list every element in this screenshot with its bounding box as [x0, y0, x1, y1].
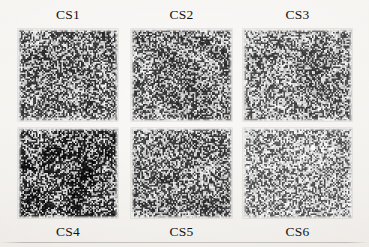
micrograph-cs3 [243, 29, 352, 121]
panel-label-cs3: CS3 [243, 7, 352, 22]
panel-label-cs6: CS6 [243, 224, 352, 239]
micrograph-canvas-cs3 [243, 29, 352, 121]
micrograph-canvas-cs1 [18, 29, 118, 121]
panel-label-cs4: CS4 [18, 224, 118, 239]
figure-root: CS1 CS2 CS3 CS4 CS5 CS6 [0, 0, 369, 247]
micrograph-canvas-cs2 [131, 29, 232, 121]
panel-label-cs2: CS2 [131, 7, 232, 22]
micrograph-canvas-cs5 [131, 128, 232, 218]
micrograph-canvas-cs4 [18, 128, 118, 218]
micrograph-cs4 [18, 128, 118, 218]
scan-artifact-line [0, 242, 369, 243]
micrograph-cs1 [18, 29, 118, 121]
panel-label-cs1: CS1 [18, 7, 118, 22]
micrograph-cs2 [131, 29, 232, 121]
micrograph-canvas-cs6 [243, 128, 352, 218]
micrograph-cs5 [131, 128, 232, 218]
micrograph-cs6 [243, 128, 352, 218]
panel-label-cs5: CS5 [131, 224, 232, 239]
